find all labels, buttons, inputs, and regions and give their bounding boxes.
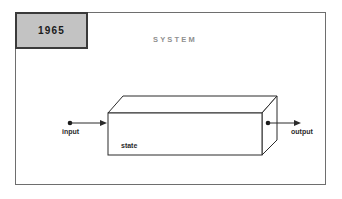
input-arrow-head	[100, 120, 107, 126]
diagram-canvas: 1965 SYSTEM input output state	[0, 0, 342, 199]
box-top-face	[108, 96, 277, 113]
input-label: input	[62, 128, 79, 135]
system-box-graphic	[0, 0, 342, 199]
output-arrow-head	[294, 120, 301, 126]
output-label: output	[291, 128, 313, 135]
state-label: state	[121, 142, 137, 149]
